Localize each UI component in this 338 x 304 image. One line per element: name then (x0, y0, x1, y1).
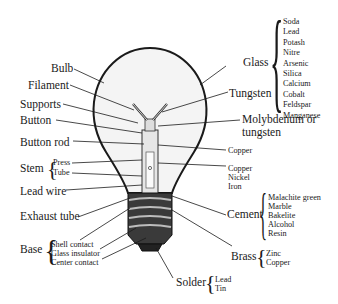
label-glass-insulator: Glass insulator (51, 249, 100, 258)
label-button: Button (20, 114, 51, 126)
brass-brace: { (256, 244, 267, 270)
label-lead-wire-iron: Iron (228, 182, 242, 191)
label-exhaust-tube: Exhaust tube (20, 210, 80, 222)
label-solder-tin: Tin (215, 284, 226, 293)
label-molybdenum-line2: tungsten (242, 126, 281, 138)
label-base: Base (20, 243, 42, 255)
screw-base (128, 193, 172, 251)
glass-material: Silica (283, 69, 320, 79)
label-center-contact: Center contact (51, 258, 99, 267)
cement-material: Marble (268, 202, 321, 211)
glass-materials-list: Soda Lead Potash Nitre Arsenic Silica Ca… (283, 17, 320, 121)
label-lead-wire-nickel: Nickel (228, 173, 250, 182)
label-tungsten: Tungsten (229, 87, 271, 99)
label-filament: Filament (28, 79, 69, 91)
label-lead-wire: Lead wire (20, 185, 66, 197)
glass-material: Potash (283, 38, 320, 48)
label-stem: Stem (20, 162, 44, 174)
label-molybdenum: Molybdenum or (242, 113, 316, 125)
glass-material: Cobalt (283, 90, 320, 100)
cement-material: Malachite green (268, 193, 321, 202)
glass-material: Lead (283, 27, 320, 37)
label-brass-copper: Copper (266, 258, 290, 267)
label-bulb: Bulb (51, 62, 73, 74)
cement-material: Alcohol (268, 220, 321, 229)
glass-material: Feldspar (283, 100, 320, 110)
glass-material: Nitre (283, 48, 320, 58)
label-cement: Cement (227, 208, 263, 220)
label-button-rod: Button rod (20, 136, 70, 148)
label-glass: Glass (243, 56, 269, 68)
label-shell-contact: Shell contact (51, 240, 94, 249)
label-copper: Copper (228, 146, 252, 155)
solder-brace: { (205, 270, 216, 296)
cement-materials-list: Malachite green Marble Bakelite Alcohol … (268, 193, 321, 238)
cement-material: Resin (268, 229, 321, 238)
label-solder: Solder (176, 276, 206, 288)
glass-material: Calcium (283, 79, 320, 89)
label-brass: Brass (231, 250, 257, 262)
label-stem-press: Press (53, 158, 70, 167)
label-supports: Supports (20, 98, 61, 110)
button (145, 119, 155, 131)
glass-material: Soda (283, 17, 320, 27)
cement-brace: { (259, 188, 267, 240)
glass-brace: { (270, 10, 283, 110)
label-brass-zinc: Zinc (266, 249, 281, 258)
glass-material: Arsenic (283, 59, 320, 69)
label-stem-tube: Tube (53, 168, 70, 177)
label-solder-lead: Lead (215, 275, 231, 284)
cement-material: Bakelite (268, 211, 321, 220)
label-lead-wire-copper: Copper (228, 164, 252, 173)
